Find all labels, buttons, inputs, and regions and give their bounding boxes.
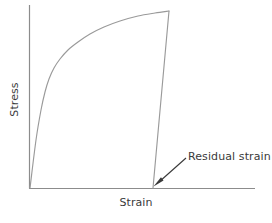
plot-canvas: [0, 0, 272, 223]
residual-strain-annotation-label: Residual strain: [188, 150, 271, 163]
stress-strain-figure: Strain Stress Residual strain: [0, 0, 272, 223]
y-axis-label-wrapper: Stress: [0, 75, 28, 135]
unloading-line-path: [153, 11, 169, 188]
y-axis-label: Stress: [8, 74, 21, 126]
x-axis-label: Strain: [0, 196, 272, 209]
loading-curve-path: [30, 11, 169, 188]
annotation-arrow-group: [154, 158, 187, 187]
annotation-arrow-line: [159, 158, 186, 182]
curves-group: [30, 11, 169, 188]
annotation-arrow-head-icon: [154, 177, 164, 186]
